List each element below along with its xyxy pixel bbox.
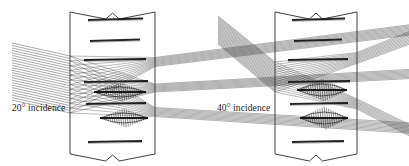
left-panel-incoming-ray-4 — [12, 53, 70, 66]
left-panel-incoming-ray-0 — [12, 43, 70, 56]
left-panel-incoming-ray-5 — [12, 55, 70, 68]
left-panel-mid-exit-ray-6 — [155, 76, 409, 90]
left-panel-interior-0-ray-0 — [70, 56, 155, 58]
left-panel-incoming-ray-11 — [12, 70, 70, 83]
left-panel-upper-exit-ray-5 — [155, 31, 409, 63]
left-panel-upper-exit-ray-6 — [155, 32, 409, 64]
ray-diagram-figure: 20° incidence 40° incidence — [0, 0, 409, 166]
left-panel-lower-exit-ray-4 — [155, 112, 409, 128]
left-panel-layer-line-3 — [84, 81, 148, 82]
right-panel-layer-line-5 — [292, 141, 344, 142]
right-panel-lower-exit-ray-3 — [357, 103, 409, 129]
left-panel-incoming-ray-16 — [12, 83, 70, 96]
right-panel-slab-bottom-break — [275, 154, 357, 161]
left-panel-incoming-ray-17 — [12, 85, 70, 98]
left-panel-lower-exit — [155, 108, 409, 134]
right-panel-lower-exit-ray-2 — [357, 102, 409, 128]
left-panel-layer-line-2 — [84, 59, 146, 60]
left-panel-beams — [12, 25, 409, 133]
left-panel-incoming-ray-12 — [12, 73, 70, 86]
left-panel-incoming-ray-3 — [12, 50, 70, 63]
left-panel-mid-exit-ray-4 — [155, 74, 409, 88]
right-panel-upper-exit-ray-7 — [357, 42, 409, 62]
left-panel-incoming-ray-1 — [12, 45, 70, 58]
left-panel-lower-exit-ray-6 — [155, 114, 409, 130]
right-panel-layer-line-2 — [288, 59, 348, 60]
left-panel-mid-exit-ray-8 — [155, 79, 409, 92]
right-panel-lower-exit-ray-4 — [357, 104, 409, 130]
left-panel-lower-exit-ray-7 — [155, 115, 409, 132]
left-panel-layers — [84, 19, 148, 144]
left-panel-incoming-ray-13 — [12, 75, 70, 88]
right-panel-layer-line-4 — [290, 103, 348, 104]
left-panel-upper-exit-ray-4 — [155, 29, 409, 61]
left-panel-upper-exit-ray-1 — [155, 26, 409, 59]
left-panel-slab — [70, 12, 155, 161]
left-panel-mid-exit-ray-5 — [155, 75, 409, 89]
left-panel-incoming-ray-2 — [12, 48, 70, 61]
right-panel-upper-exit — [357, 32, 409, 64]
ray-diagram-canvas — [0, 0, 409, 166]
right-panel-upper-exit-ray-2 — [357, 34, 409, 54]
left-panel-incoming-ray-6 — [12, 58, 70, 71]
right-panel-upper-exit-ray-5 — [357, 39, 409, 59]
caption-40-degree-incidence: 40° incidence — [217, 104, 270, 114]
left-panel-lower-exit-ray-5 — [155, 113, 409, 129]
left-panel-incoming-ray-19 — [12, 90, 70, 103]
left-panel-incoming-ray-14 — [12, 78, 70, 91]
left-panel-incoming-ray-10 — [12, 68, 70, 81]
left-panel-incoming-ray-9 — [12, 65, 70, 78]
left-panel-incoming-ray-7 — [12, 60, 70, 73]
right-panel-upper-exit-ray-6 — [357, 40, 409, 60]
right-panel-layer-line-3 — [288, 81, 350, 82]
left-panel-interior-beams — [70, 56, 155, 117]
left-panel-layer-line-4 — [86, 103, 146, 104]
caption-20-degree-incidence: 20° incidence — [12, 104, 65, 114]
left-panel-upper-exit-ray-8 — [155, 34, 409, 65]
left-panel-slab-bottom-break — [70, 154, 155, 161]
left-panel-upper-exit-ray-7 — [155, 33, 409, 65]
left-panel-layer-line-5 — [88, 141, 142, 142]
left-panel-incoming-ray-15 — [12, 80, 70, 93]
left-panel-incoming-ray-18 — [12, 88, 70, 101]
left-panel-upper-exit — [155, 25, 409, 67]
beam-bundles-group — [12, 16, 409, 136]
right-panel-incoming-ray-12 — [218, 31, 275, 78]
left-panel-upper-exit-ray-0 — [155, 25, 409, 58]
left-panel-incoming-ray-8 — [12, 63, 70, 76]
